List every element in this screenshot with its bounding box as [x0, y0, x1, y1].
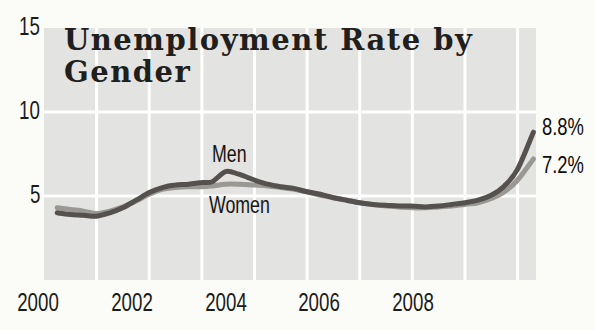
x-tick-label-2004: 2004 [197, 287, 255, 318]
chart-title: Unemployment Rate by Gender [64, 24, 484, 88]
x-tick-label-2008: 2008 [384, 287, 442, 318]
chart-title-line-2: Gender [64, 56, 484, 88]
men-end-value-label: 8.8% [542, 114, 594, 141]
y-tick-label-15: 15 [0, 11, 40, 42]
y-tick-label-5: 5 [0, 179, 40, 210]
chart-figure: Unemployment Rate by Gender 15 10 5 2000… [0, 0, 595, 330]
women-series-label: Women [209, 191, 291, 219]
x-tick-label-2006: 2006 [290, 287, 348, 318]
men-series-label: Men [212, 140, 259, 168]
y-tick-label-10: 10 [0, 95, 40, 126]
chart-title-line-1: Unemployment Rate by [64, 24, 484, 56]
x-tick-label-2000: 2000 [9, 287, 67, 318]
women-end-value-label: 7.2% [542, 152, 594, 179]
x-tick-label-2002: 2002 [103, 287, 161, 318]
